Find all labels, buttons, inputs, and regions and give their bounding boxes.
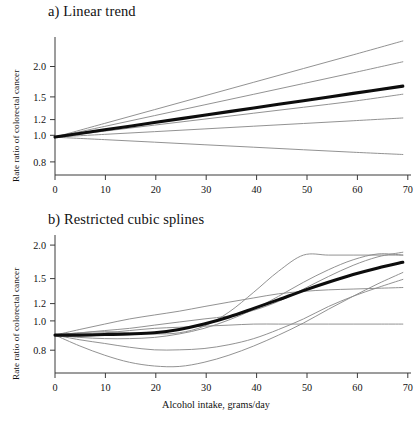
panel-linear-trend: a) Linear trend Rate ratio of colorectal… [0,0,420,211]
panel-a-ylabel-0.8: 0.8 [33,157,46,168]
panel-b-xlabel-60: 60 [352,382,362,393]
series-line-pooled-linear-trend [55,86,403,137]
panel-b-xlabel-50: 50 [302,382,312,393]
panel-b-xlabel-20: 20 [151,382,161,393]
panel-b-series-group [55,252,403,367]
series-line-spline-3 [55,252,403,335]
panel-b-xlabel-40: 40 [252,382,262,393]
panel-a-xlabel-50: 50 [302,184,312,195]
panel-a-xlabel-40: 40 [252,184,262,195]
series-line-study-1 [55,41,403,137]
panel-a-xlabel-10: 10 [100,184,110,195]
panel-restricted-cubic-splines: b) Restricted cubic splines Rate ratio o… [0,205,420,416]
panel-a-xlabel-60: 60 [352,184,362,195]
panel-a-ylabel-1.2: 1.2 [33,114,46,125]
series-line-spline-5 [55,279,403,350]
panel-a-ylabel-1.5: 1.5 [33,92,46,103]
panel-a-xlabel-70: 70 [403,184,413,195]
panel-a-axes: 2.0 1.5 1.2 1.0 0.8 0 10 20 30 40 50 [33,37,413,195]
series-line-spline-2 [55,288,403,336]
panel-b-xlabel-0: 0 [52,382,57,393]
panel-b-ylabel-1.2: 1.2 [33,298,46,309]
panel-a-xlabel-0: 0 [52,184,57,195]
panel-a-ylabel-2.0: 2.0 [33,61,46,72]
series-line-study-5 [55,137,403,154]
panel-a-xlabel-30: 30 [201,184,211,195]
panel-b-xlabel-10: 10 [100,382,110,393]
panel-b-xlabel-70: 70 [403,382,413,393]
panel-a-ylabel-1.0: 1.0 [33,130,46,141]
figure-x-axis-label: Alcohol intake, grams/day [162,399,271,410]
panel-b-ylabel-1.5: 1.5 [33,273,46,284]
panel-a-plot: 2.0 1.5 1.2 1.0 0.8 0 10 20 30 40 50 [0,0,420,211]
panel-b-ylabel-0.8: 0.8 [33,345,46,356]
panel-b-ylabel-2.0: 2.0 [33,240,46,251]
figure-container: a) Linear trend Rate ratio of colorectal… [0,0,420,422]
panel-b-ylabel-1.0: 1.0 [33,316,46,327]
panel-b-plot: 2.0 1.5 1.2 1.0 0.8 0 10 20 30 40 50 60 [0,205,420,422]
panel-a-series-group [55,41,403,155]
series-line-study-2 [55,62,403,137]
series-line-study-4 [55,118,403,137]
panel-a-xlabel-20: 20 [151,184,161,195]
panel-b-xlabel-30: 30 [201,382,211,393]
